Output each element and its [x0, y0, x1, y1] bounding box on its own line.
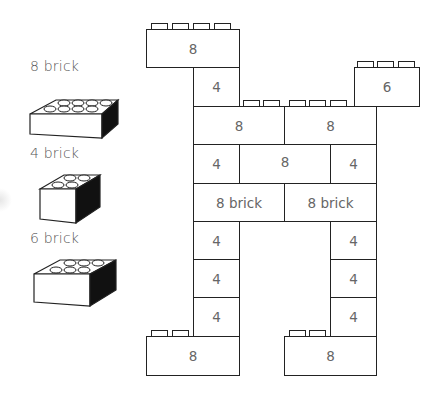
brick-row4-left: 4	[193, 144, 240, 184]
brick-leg-left-1: 4	[193, 221, 240, 260]
brick-top-left: 8	[146, 29, 240, 68]
brick-row5-left: 8 brick	[193, 183, 285, 222]
legend-label-4: 4 brick	[30, 145, 79, 161]
brick-row4-mid: 8	[239, 144, 331, 184]
legend-label-8: 8 brick	[30, 58, 79, 74]
brick-foot-right: 8	[284, 336, 377, 376]
brick-foot-left: 8	[146, 336, 240, 376]
brick-leg-left-2: 4	[193, 259, 240, 298]
iso-brick-8-icon	[28, 84, 120, 140]
brick-leg-left-3: 4	[193, 297, 240, 337]
brick-leg-right-2: 4	[330, 259, 377, 298]
brick-row5-right: 8 brick	[284, 183, 377, 222]
brick-leg-right-3: 4	[330, 297, 377, 337]
legend-label-6: 6 brick	[30, 230, 79, 246]
brick-left-upper-4: 4	[193, 67, 240, 107]
brick-row3-right: 8	[284, 106, 377, 145]
brick-top-right: 6	[354, 67, 420, 107]
brick-row4-right: 4	[330, 144, 377, 184]
brick-row3-left: 8	[193, 106, 285, 145]
brick-leg-right-1: 4	[330, 221, 377, 260]
smudge	[0, 188, 12, 212]
iso-brick-4-icon	[38, 167, 102, 225]
iso-brick-6-icon	[32, 250, 118, 308]
